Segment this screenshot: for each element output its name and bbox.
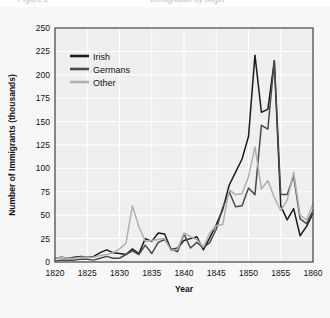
x-tick-label: 1825 <box>78 268 97 278</box>
y-tick-label: 150 <box>36 117 50 127</box>
y-tick-label: 250 <box>36 23 50 33</box>
y-tick-label: 0 <box>45 257 50 267</box>
x-tick-label: 1850 <box>239 268 258 278</box>
y-axis-title: Number of Immigrants (thousands) <box>7 74 17 216</box>
y-tick-label: 125 <box>36 140 50 150</box>
x-tick-label: 1835 <box>142 268 161 278</box>
x-tick-label: 1840 <box>175 268 194 278</box>
y-tick-label: 25 <box>41 234 51 244</box>
y-tick-label: 225 <box>36 46 50 56</box>
y-tick-label: 75 <box>41 187 51 197</box>
y-tick-label: 200 <box>36 70 50 80</box>
x-tick-label: 1855 <box>271 268 290 278</box>
x-axis-tick-labels: 182018251830183518401845185018551860 <box>46 268 323 278</box>
y-tick-label: 50 <box>41 210 51 220</box>
x-tick-label: 1820 <box>46 268 65 278</box>
x-axis-title: Year <box>175 284 194 294</box>
x-tick-label: 1845 <box>207 268 226 278</box>
x-tick-label: 1860 <box>304 268 323 278</box>
y-axis-tick-labels: 0255075100125150175200225250 <box>36 23 50 267</box>
y-tick-label: 175 <box>36 93 50 103</box>
top-caption-left: Figure 2 <box>18 0 49 4</box>
top-caption-right: Immigration by origin <box>150 0 224 4</box>
chart-panel: 0255075100125150175200225250 18201825183… <box>0 7 330 318</box>
legend-label-other: Other <box>93 78 116 88</box>
x-tick-label: 1830 <box>110 268 129 278</box>
y-tick-label: 100 <box>36 163 50 173</box>
top-caption-strip: Figure 2 Immigration by origin <box>0 0 330 7</box>
legend-label-germans: Germans <box>93 65 131 75</box>
figure-container: Figure 2 Immigration by origin 025507510… <box>0 0 330 318</box>
immigration-line-chart: 0255075100125150175200225250 18201825183… <box>0 7 330 318</box>
legend-label-irish: Irish <box>93 52 110 62</box>
